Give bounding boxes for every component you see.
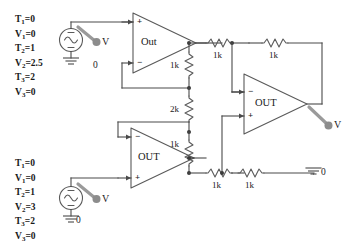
ground-node-top-label: 0 — [93, 60, 98, 70]
opamp-top-left-label: Out — [141, 36, 157, 47]
resistor-bottom-2-label: 1k — [245, 180, 254, 190]
resistor-bottom-1-label: 1k — [212, 180, 221, 190]
param-line: V3=0 — [15, 87, 43, 102]
opamp-top-left-pin-plus: + — [137, 16, 142, 26]
param-line: T2=1 — [15, 187, 36, 202]
resistor-center-mid-symbol — [185, 96, 193, 122]
resistor-top-1-label: 1k — [213, 50, 222, 60]
opamp-bottom-left-pin-plus: + — [135, 172, 140, 182]
resistor-center-mid-label: 2k — [170, 104, 179, 114]
probe-source-top-symbol — [78, 27, 101, 46]
circuit-diagram: .w {stroke:#4a4a4a;stroke-width:1.1;fill… — [0, 0, 357, 249]
circuit-schematic-svg: .w {stroke:#4a4a4a;stroke-width:1.1;fill… — [0, 0, 357, 249]
param-line: V2=3 — [15, 202, 36, 217]
resistor-top-2-symbol — [262, 39, 288, 47]
param-line: T2=1 — [15, 43, 43, 58]
probe-output-right-label: V — [334, 119, 341, 130]
source-params-top: T1=0 V1=0 T2=1 V2=2.5 T3=2 V3=0 — [15, 14, 43, 102]
param-line: T3=2 — [15, 216, 36, 231]
param-line: T1=0 — [15, 158, 36, 173]
resistor-center-top-label: 1k — [170, 60, 179, 70]
param-line: T3=2 — [15, 72, 43, 87]
resistor-top-2-label: 1k — [269, 50, 278, 60]
node-dot-bottom-mid — [220, 171, 224, 175]
probe-source-bottom-label: V — [102, 193, 109, 204]
opamp-top-left-pin-minus: − — [137, 57, 142, 67]
node-dot-out-bottom — [187, 156, 191, 160]
probe-source-top-label: V — [102, 36, 109, 47]
source-params-bottom: T1=0 V1=0 T2=1 V2=3 T3=2 V3=0 — [15, 158, 36, 246]
opamp-bottom-left-pin-minus: − — [135, 131, 140, 141]
resistor-center-top-symbol — [185, 52, 193, 78]
opamp-bottom-left-symbol — [118, 122, 206, 188]
probe-output-right-symbol — [309, 107, 333, 130]
opamp-right-pin-minus: − — [248, 86, 253, 96]
param-line: V2=2.5 — [15, 58, 43, 73]
ground-right-label: 0 — [321, 167, 326, 177]
param-line: V3=0 — [15, 231, 36, 246]
opamp-bottom-left-label: OUT — [138, 151, 160, 162]
ground-source-bottom-label: 0 — [76, 215, 81, 225]
resistor-bottom-1-symbol — [206, 169, 232, 177]
param-line: V1=0 — [15, 173, 36, 188]
opamp-right-symbol — [222, 43, 322, 173]
param-line: V1=0 — [15, 29, 43, 44]
opamp-right-pin-plus: + — [248, 110, 253, 120]
param-line: T1=0 — [15, 14, 43, 29]
opamp-right-label: OUT — [255, 97, 277, 108]
resistor-center-bottom-label: 1k — [170, 139, 179, 149]
